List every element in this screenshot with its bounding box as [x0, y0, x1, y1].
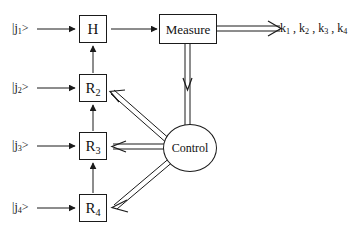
output-k4: k4	[337, 21, 347, 35]
wire-control-to-r4-a	[114, 156, 172, 205]
gate-r2-label: R2	[85, 81, 100, 96]
output-k2: k2	[299, 21, 309, 35]
control-label: Control	[172, 141, 209, 156]
wire-control-to-r4-b	[117, 160, 175, 209]
control-r3-arrowhead	[112, 141, 126, 152]
control-r2-arrowhead	[110, 90, 125, 102]
output-k1: k1	[280, 21, 290, 35]
gate-r3-label: R3	[85, 139, 100, 154]
gate-hadamard-label: H	[88, 22, 99, 37]
measure-label: Measure	[166, 23, 211, 36]
input-label-4: |j4>	[12, 200, 29, 215]
output-k3: k3	[318, 21, 328, 35]
measure-control-arrowhead	[183, 78, 192, 90]
output-labels: k1 , k2 , k3 , k4	[280, 21, 347, 36]
gate-hadamard[interactable]: H	[79, 15, 107, 43]
wire-control-to-r2-a	[114, 90, 172, 141]
gate-r3[interactable]: R3	[79, 132, 107, 160]
circuit-diagram: |j1> |j2> |j3> |j4> H R2 R3 R4 Measure C…	[0, 0, 362, 235]
gate-r4-label: R4	[85, 201, 100, 216]
output-sep-1: ,	[290, 21, 299, 35]
wire-control-to-r2-b	[111, 94, 169, 145]
gate-r2[interactable]: R2	[79, 74, 107, 102]
input-label-2: |j2>	[12, 80, 29, 95]
input-label-1: |j1>	[12, 21, 29, 36]
gate-r4[interactable]: R4	[79, 194, 107, 222]
input-label-3: |j3>	[12, 138, 29, 153]
output-sep-2: ,	[309, 21, 318, 35]
measure-box[interactable]: Measure	[159, 14, 217, 44]
control-node[interactable]: Control	[163, 124, 217, 172]
output-sep-3: ,	[328, 21, 337, 35]
